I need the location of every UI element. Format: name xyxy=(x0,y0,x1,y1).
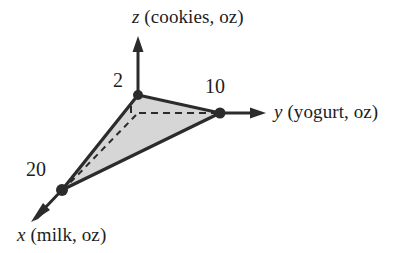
y-axis-arrowhead xyxy=(250,108,266,119)
x-axis xyxy=(31,190,62,222)
z-axis-description: (cookies, oz) xyxy=(144,6,243,27)
z-axis xyxy=(133,36,144,95)
z-axis-variable: z xyxy=(132,6,140,27)
y-axis xyxy=(220,108,266,119)
y-intercept-label: 10 xyxy=(205,76,225,96)
x-intercept-label: 20 xyxy=(26,159,46,179)
z-intercept-label: 2 xyxy=(113,70,123,90)
z-axis-arrowhead xyxy=(133,36,144,52)
y-intercept-point xyxy=(215,108,226,119)
z-axis-label: z (cookies, oz) xyxy=(132,7,244,27)
y-axis-variable: y xyxy=(274,101,283,122)
diagram-svg xyxy=(0,0,415,253)
z-intercept-point xyxy=(133,90,143,100)
x-axis-description: (milk, oz) xyxy=(30,224,106,245)
x-axis-variable: x xyxy=(17,224,26,245)
y-axis-label: y (yogurt, oz) xyxy=(274,102,378,122)
x-axis-label: x (milk, oz) xyxy=(17,225,106,245)
y-axis-description: (yogurt, oz) xyxy=(287,101,378,122)
coordinate-diagram: z (cookies, oz) y (yogurt, oz) x (milk, … xyxy=(0,0,415,253)
x-intercept-point xyxy=(56,184,68,196)
